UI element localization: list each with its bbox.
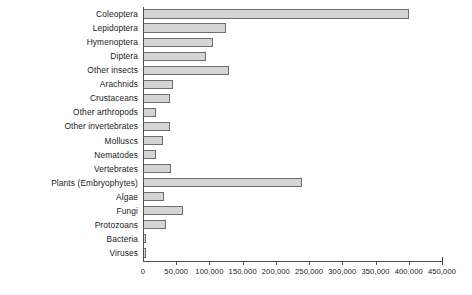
x-axis-tick-mark (309, 261, 310, 265)
bar-row: Arachnids (143, 77, 442, 91)
bar-row: Coleoptera (143, 7, 442, 21)
bar (143, 178, 302, 187)
bar-row: Lepidoptera (143, 21, 442, 35)
bar-category-label: Protozoans (95, 221, 138, 229)
plot-area: ColeopteraLepidopteraHymenopteraDipteraO… (143, 7, 442, 260)
category-axis-line (143, 7, 144, 262)
bar (143, 52, 206, 61)
x-axis-tick-label: 350,000 (361, 268, 389, 276)
bar-category-label: Lepidoptera (93, 24, 138, 32)
bar-category-label: Algae (116, 193, 138, 201)
bar-category-label: Other insects (87, 66, 138, 74)
value-axis-line (143, 261, 443, 262)
bar (143, 80, 173, 89)
bar-row: Bacteria (143, 232, 442, 246)
x-axis-tick-mark (243, 261, 244, 265)
bar (143, 206, 183, 215)
x-axis-tick-label: 0 (141, 268, 145, 276)
axis-cap-left (143, 257, 144, 262)
bar-row: Protozoans (143, 218, 442, 232)
bar-category-label: Crustaceans (90, 94, 138, 102)
bar-row: Fungi (143, 204, 442, 218)
bar-row: Viruses (143, 246, 442, 260)
bar-category-label: Coleoptera (96, 10, 138, 18)
x-axis-tick-mark (276, 261, 277, 265)
bar-row: Other arthropods (143, 105, 442, 119)
x-axis-tick-mark (342, 261, 343, 265)
bar (143, 9, 409, 18)
bar-category-label: Viruses (110, 249, 138, 257)
x-axis-tick-label: 150,000 (229, 268, 257, 276)
bar-row: Hymenoptera (143, 35, 442, 49)
bar (143, 192, 164, 201)
bar-row: Other invertebrates (143, 119, 442, 133)
bar (143, 122, 170, 131)
bar (143, 150, 156, 159)
bar-row: Crustaceans (143, 91, 442, 105)
x-axis-tick-mark (442, 261, 443, 265)
bar (143, 38, 213, 47)
x-axis-tick-label: 300,000 (328, 268, 356, 276)
bar-row: Plants (Embryophytes) (143, 176, 442, 190)
x-axis-tick-label: 400,000 (395, 268, 423, 276)
bar-category-label: Plants (Embryophytes) (51, 178, 138, 186)
bar (143, 23, 226, 32)
bar-category-label: Other arthropods (73, 108, 138, 116)
bar-category-label: Molluscs (105, 136, 138, 144)
bar-category-label: Bacteria (106, 235, 138, 243)
bar-category-label: Diptera (110, 52, 138, 60)
bar-category-label: Hymenoptera (87, 38, 138, 46)
bar (143, 220, 166, 229)
x-axis-tick-label: 250,000 (295, 268, 323, 276)
bar-row: Nematodes (143, 148, 442, 162)
bar-category-label: Vertebrates (94, 164, 138, 172)
bar-category-label: Fungi (117, 207, 138, 215)
x-axis-tick-label: 450,000 (428, 268, 456, 276)
x-axis-tick-label: 100,000 (195, 268, 223, 276)
bar (143, 136, 163, 145)
bar (143, 94, 170, 103)
bar-row: Vertebrates (143, 162, 442, 176)
x-axis-tick-label: 200,000 (262, 268, 290, 276)
bar-row: Algae (143, 190, 442, 204)
bar (143, 164, 171, 173)
bar-category-label: Arachnids (100, 80, 138, 88)
x-axis-tick-mark (409, 261, 410, 265)
bar-category-label: Other invertebrates (64, 122, 138, 130)
bar-row: Other insects (143, 63, 442, 77)
x-axis-tick-mark (176, 261, 177, 265)
x-axis-tick-mark (376, 261, 377, 265)
x-axis-tick-mark (209, 261, 210, 265)
x-axis-tick-label: 50,000 (164, 268, 188, 276)
bar (143, 66, 229, 75)
bar-row: Molluscs (143, 134, 442, 148)
bar-chart: ColeopteraLepidopteraHymenopteraDipteraO… (0, 0, 472, 295)
bar (143, 108, 156, 117)
bar-row: Diptera (143, 49, 442, 63)
bar-category-label: Nematodes (94, 150, 138, 158)
